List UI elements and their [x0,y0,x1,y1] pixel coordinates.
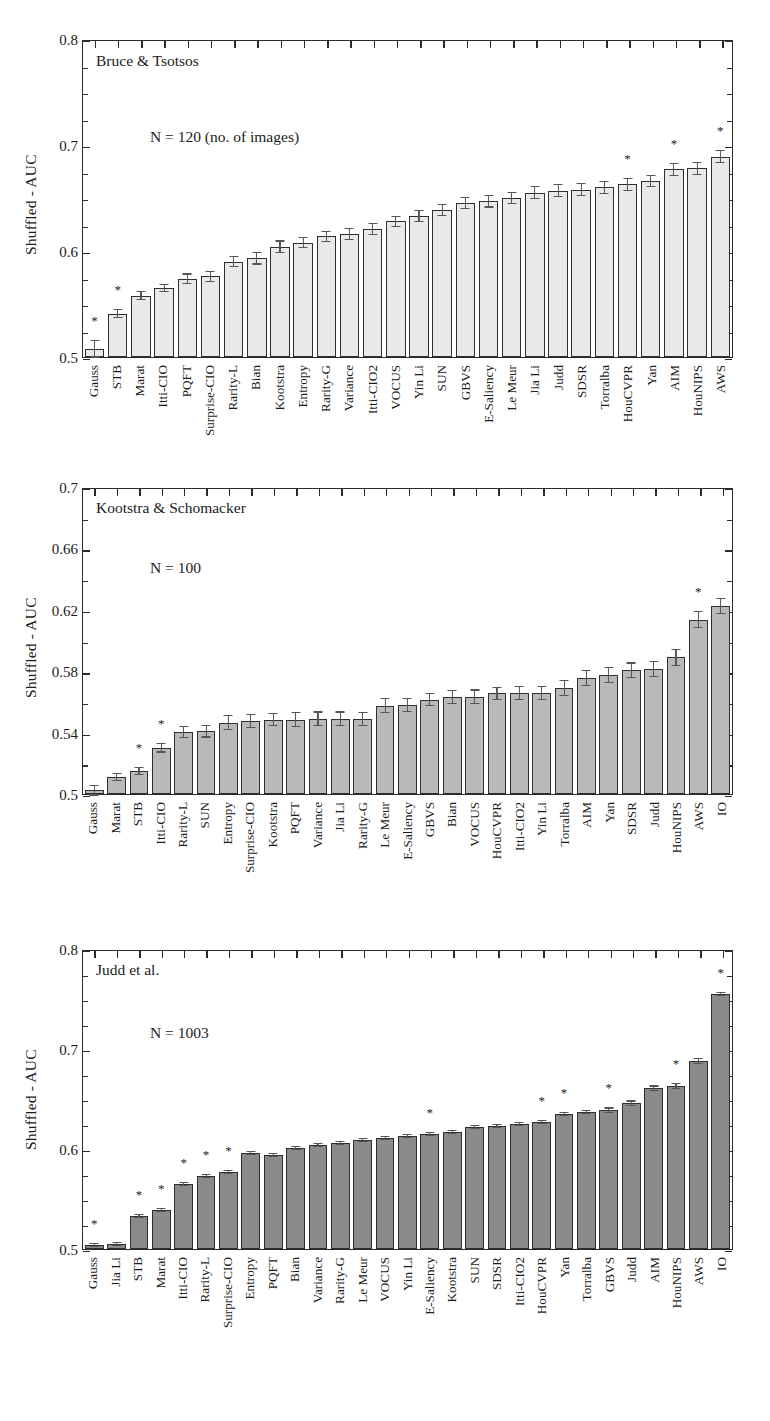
x-label-cell: PQFT [175,362,198,472]
bar [219,1172,238,1249]
x-label-cell: HouCVPR [531,1254,553,1364]
error-bar [229,256,238,267]
error-bar [582,1110,591,1115]
x-label-cell: Jia Li [329,799,351,909]
bar [548,191,567,357]
bar [353,719,372,794]
y-tick-label: 0.5 [59,788,78,803]
error-bar [136,291,145,300]
error-bar [90,340,99,358]
error-bar [470,689,479,703]
x-tick-label: Rarity-L [176,802,189,847]
bar-group [407,41,430,357]
bar [178,279,197,357]
x-tick-label: Torralba [558,802,571,846]
y-tick-label: 0.7 [59,481,78,496]
x-label-cell: VOCUS [374,1254,396,1364]
bar-group [315,41,338,357]
error-bar [112,1242,121,1246]
bar-series: ************ [83,951,732,1249]
x-tick-label: STB [132,802,145,826]
bar [510,1124,529,1249]
x-tick-label: Variance [311,802,324,848]
bar-group [575,951,597,1249]
x-label-cell: SUN [194,799,216,909]
x-tick-label: AIM [668,365,681,391]
x-tick-label: Entropy [244,1257,257,1300]
bar-group [352,489,374,794]
bar-group [284,489,306,794]
bar-group [384,41,407,357]
x-tick-label: HouCVPR [536,1257,549,1314]
y-tick-right [725,1251,732,1252]
error-bar [179,1182,188,1186]
x-label-cell: Yan [554,1254,576,1364]
x-label-cell: Kootstra [441,1254,463,1364]
x-tick-label: GBVS [423,802,436,837]
error-bar [470,1125,479,1129]
bar [219,723,238,794]
x-tick-label: Kootstra [446,1257,459,1302]
x-tick-label: Surprise-CIO [244,802,257,873]
bar-group: * [150,489,172,794]
x-label-cell: Rarity-L [194,1254,216,1364]
x-label-cell: Judd [643,799,665,909]
error-bar [671,649,680,667]
bar-group [245,41,268,357]
bar-group [463,951,485,1249]
bar [689,620,708,794]
error-bar [90,1243,99,1247]
significance-star: * [115,283,122,296]
bar [152,748,171,794]
significance-star: * [203,1148,210,1161]
x-label-cell: Marat [104,799,126,909]
bar [152,1210,171,1249]
error-bar [381,698,390,713]
x-label-cell: GBVS [419,799,441,909]
error-bar [604,667,613,683]
error-bar [246,1151,255,1155]
x-tick-label: Itti-CIO2 [366,365,379,414]
bar [340,234,359,357]
error-bar [134,1214,143,1218]
error-bar [381,1136,390,1140]
x-tick-label: Judd [648,802,661,827]
x-label-cell: Itti-CIO [172,1254,194,1364]
x-tick-label: Itti-CIO [157,365,170,408]
bar [353,1140,372,1249]
x-tick-label: Bian [289,1257,302,1282]
x-label-cell: HouNIPS [687,362,710,472]
x-label-cell: Entropy [291,362,314,472]
x-label-cell: Variance [338,362,361,472]
bar-group: * [665,951,687,1249]
x-label-cell: PQFT [262,1254,284,1364]
bar-group [508,951,530,1249]
significance-star: * [717,124,724,137]
x-label-cell: Itti-CIO2 [509,1254,531,1364]
error-bar [693,162,702,175]
bar-group [199,41,222,357]
error-bar [414,210,423,222]
bar [479,201,498,357]
panel-title: Kootstra & Schomacker [96,499,246,517]
x-tick-label: PQFT [180,365,193,397]
x-label-cell: Rarity-L [222,362,245,472]
bar [711,606,730,794]
y-tick-right [725,359,732,360]
bar-group: * [710,951,732,1249]
error-bar [438,204,447,216]
error-bar [224,715,233,730]
bar-group: * [419,951,441,1249]
bar-group [546,41,569,357]
error-bar [649,1085,658,1090]
x-tick-label: AWS [693,802,706,830]
x-label-cell: AWS [688,799,710,909]
error-bar [336,711,345,726]
x-tick-label: GBVS [603,1257,616,1292]
bar-group [352,951,374,1249]
x-tick-label: Torralba [599,365,612,409]
error-bar [157,1208,166,1212]
x-axis-tick-labels: GaussJia LiSTBMaratItti-CIORarity-LSurpr… [82,1254,733,1364]
x-label-cell: Kootstra [262,799,284,909]
x-label-cell: STB [105,362,128,472]
